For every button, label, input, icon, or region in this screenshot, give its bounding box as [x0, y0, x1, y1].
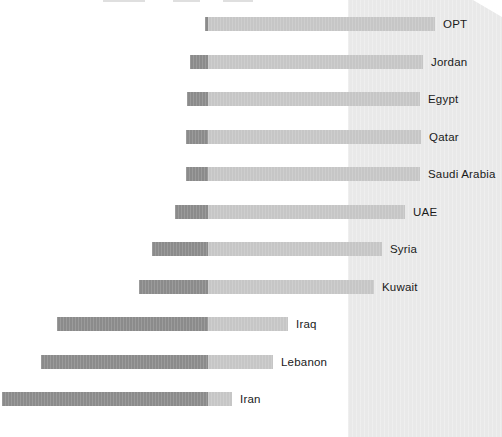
bar-segment-dark — [175, 205, 208, 219]
bar-segment-dark — [186, 167, 208, 181]
bar-segment-light — [208, 167, 420, 181]
bar-segment-dark — [57, 317, 208, 331]
bar-segment-dark — [187, 92, 208, 106]
bar-row: OPT — [0, 17, 502, 31]
chart-figure: OPTJordanEgyptQatarSaudi ArabiaUAESyriaK… — [0, 0, 502, 437]
bar-segment-dark — [2, 392, 208, 406]
bar-row: Iraq — [0, 317, 502, 331]
cropped-text-remnant — [103, 0, 145, 2]
bar-segment-light — [208, 392, 232, 406]
bar-segment-dark — [186, 130, 208, 144]
bar-row: Kuwait — [0, 280, 502, 294]
bar-segment-light — [208, 17, 435, 31]
cropped-text-remnant — [223, 0, 253, 2]
bar-segment-light — [208, 92, 420, 106]
bar-segment-light — [208, 317, 288, 331]
bar-row: Saudi Arabia — [0, 167, 502, 181]
bar-segment-light — [208, 130, 421, 144]
bar-segment-light — [208, 55, 423, 69]
category-label: Saudi Arabia — [428, 168, 496, 180]
bar-row: Iran — [0, 392, 502, 406]
category-label: Lebanon — [281, 356, 327, 368]
category-label: Jordan — [431, 56, 467, 68]
category-label: Iran — [240, 393, 261, 405]
bar-row: Syria — [0, 242, 502, 256]
category-label: Egypt — [428, 93, 458, 105]
category-label: Kuwait — [382, 281, 418, 293]
bar-segment-dark — [190, 55, 208, 69]
cropped-text-remnant — [173, 0, 200, 2]
bar-segment-dark — [152, 242, 208, 256]
category-label: Qatar — [429, 131, 459, 143]
bar-row: Qatar — [0, 130, 502, 144]
bar-segment-dark — [139, 280, 208, 294]
bar-row: Jordan — [0, 55, 502, 69]
bar-segment-light — [208, 280, 374, 294]
bar-segment-dark — [41, 355, 208, 369]
bar-row: Egypt — [0, 92, 502, 106]
category-label: UAE — [413, 206, 437, 218]
bar-row: Lebanon — [0, 355, 502, 369]
category-label: Iraq — [296, 318, 317, 330]
bar-segment-light — [208, 242, 382, 256]
bar-row: UAE — [0, 205, 502, 219]
bar-segment-light — [208, 205, 405, 219]
category-label: Syria — [390, 243, 417, 255]
bar-segment-light — [208, 355, 273, 369]
category-label: OPT — [443, 18, 467, 30]
